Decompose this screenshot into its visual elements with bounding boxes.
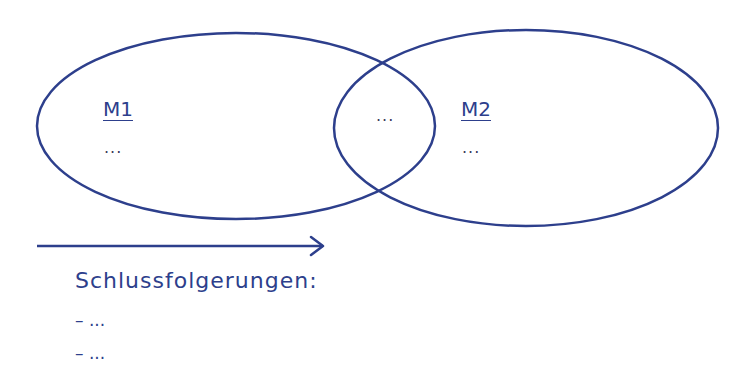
arrow-right-icon [37, 237, 323, 255]
set-m2-title: M2 [461, 99, 491, 119]
conclusion-item: – ... [75, 310, 105, 330]
intersection-content: ... [376, 108, 394, 124]
conclusion-item: – ... [75, 343, 105, 363]
set-m1-ellipse [37, 33, 435, 219]
set-m2-content: ... [462, 140, 480, 156]
set-m1-content: ... [104, 140, 122, 156]
set-m1-title: M1 [103, 99, 133, 119]
conclusions-heading: Schlussfolgerungen: [75, 268, 318, 293]
venn-diagram-canvas [0, 0, 750, 377]
set-m2-ellipse [334, 30, 718, 226]
